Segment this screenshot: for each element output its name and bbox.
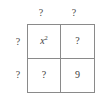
cell-bottom-right: 9 bbox=[61, 59, 94, 93]
column-label-right: ? bbox=[68, 8, 80, 18]
cell-top-left-exponent: 2 bbox=[45, 34, 48, 41]
cell-top-right: ? bbox=[61, 25, 94, 59]
cell-bottom-right-value: 9 bbox=[75, 70, 80, 80]
column-label-left: ? bbox=[35, 8, 47, 18]
row-label-top: ? bbox=[12, 37, 24, 47]
row-label-bottom: ? bbox=[12, 70, 24, 80]
grid-table: x2 ? ? 9 bbox=[27, 24, 95, 93]
cell-bottom-left-value: ? bbox=[42, 70, 46, 80]
cell-top-right-value: ? bbox=[75, 36, 79, 46]
cell-top-left: x2 bbox=[28, 25, 61, 59]
cell-top-left-value: x2 bbox=[40, 36, 48, 46]
cell-bottom-left: ? bbox=[28, 59, 61, 93]
box-method-figure: ? ? ? ? x2 ? ? 9 bbox=[0, 0, 107, 100]
